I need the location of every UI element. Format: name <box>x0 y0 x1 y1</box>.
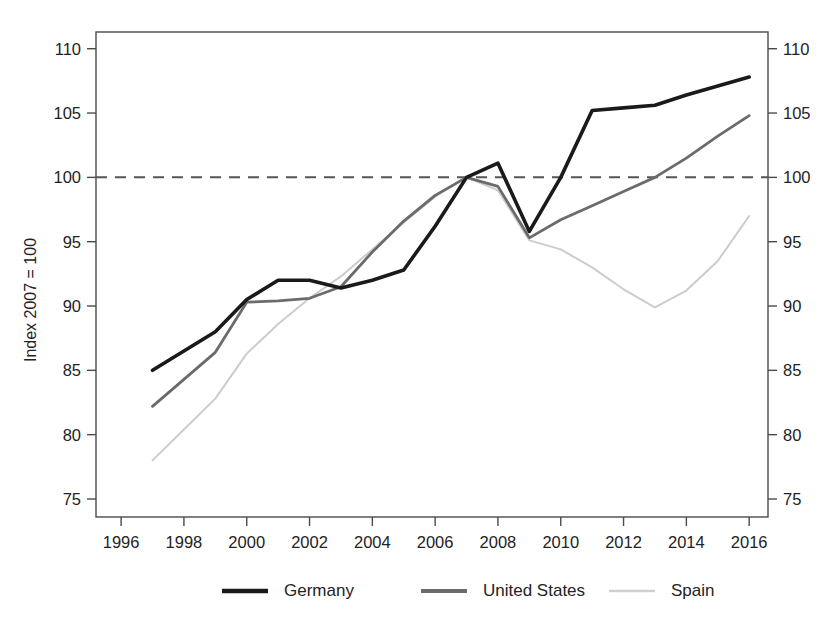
x-tick-label: 2004 <box>354 533 391 551</box>
y-tick-label-right: 105 <box>783 104 811 122</box>
y-tick-label-left: 85 <box>63 361 81 379</box>
legend-label-united-states: United States <box>483 581 585 600</box>
y-tick-label-right: 75 <box>783 490 801 508</box>
y-tick-label-right: 90 <box>783 297 801 315</box>
y-tick-label-left: 75 <box>63 490 81 508</box>
legend-label-spain: Spain <box>671 581 714 600</box>
y-tick-label-left: 90 <box>63 297 81 315</box>
chart-figure: 7580859095100105110 7580859095100105110 … <box>0 0 825 621</box>
x-tick-label: 2006 <box>417 533 454 551</box>
y-axis-title: Index 2007 = 100 <box>22 238 39 362</box>
x-tick-label: 2002 <box>291 533 328 551</box>
y-tick-label-right: 80 <box>783 426 801 444</box>
x-tick-label: 2010 <box>542 533 579 551</box>
x-tick-label: 2014 <box>668 533 705 551</box>
x-tick-label: 2008 <box>480 533 517 551</box>
y-tick-label-left: 110 <box>55 40 81 58</box>
y-tick-label-left: 105 <box>53 104 81 122</box>
y-tick-label-right: 100 <box>783 168 811 186</box>
y-tick-label-left: 95 <box>63 233 81 251</box>
x-tick-label: 1996 <box>103 533 140 551</box>
y-tick-label-right: 85 <box>783 361 801 379</box>
legend-label-germany: Germany <box>284 581 354 600</box>
y-tick-label-right: 95 <box>783 233 801 251</box>
x-tick-label: 2012 <box>605 533 642 551</box>
chart-background <box>0 0 825 621</box>
y-tick-label-right: 110 <box>783 40 809 58</box>
line-chart: 7580859095100105110 7580859095100105110 … <box>0 0 825 621</box>
y-tick-label-left: 100 <box>53 168 81 186</box>
x-tick-label: 2000 <box>228 533 265 551</box>
x-tick-label: 1998 <box>166 533 203 551</box>
x-tick-label: 2016 <box>731 533 768 551</box>
y-tick-label-left: 80 <box>63 426 81 444</box>
